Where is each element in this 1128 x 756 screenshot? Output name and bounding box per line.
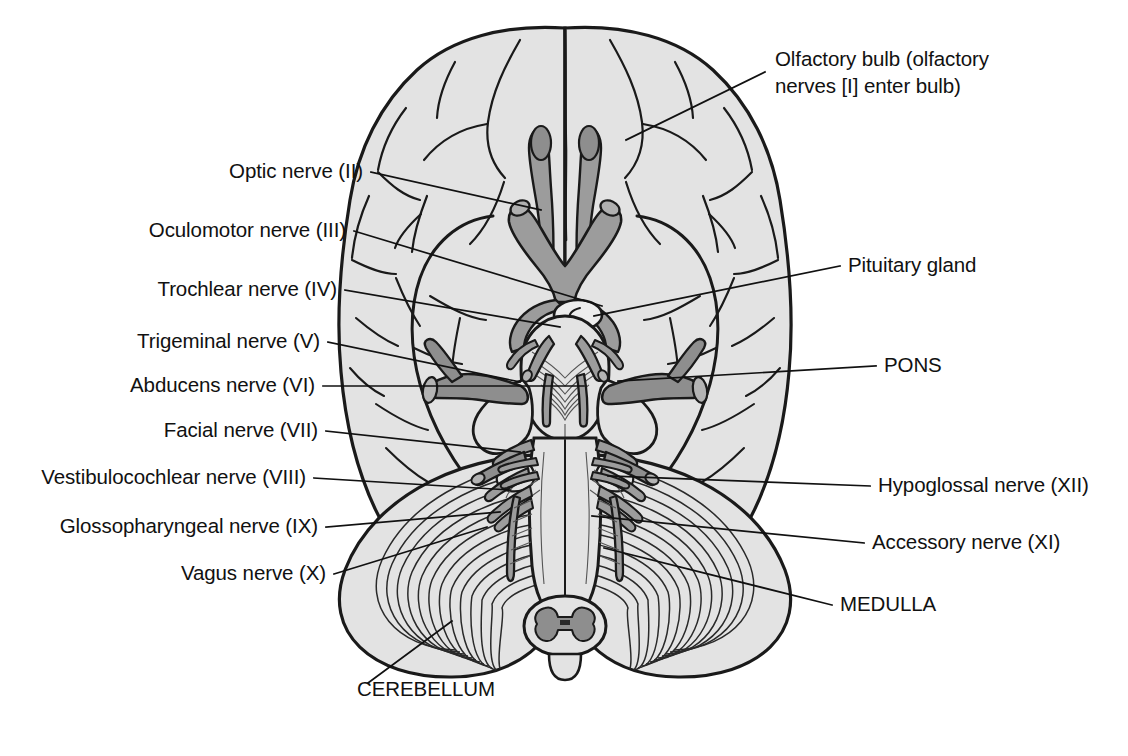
label-facial-nerve[interactable]: Facial nerve (VII) [164, 418, 318, 441]
olfactory-bulb-left [531, 126, 551, 160]
label-glossopharyngeal-nerve[interactable]: Glossopharyngeal nerve (IX) [60, 514, 318, 537]
labels-bottom: CEREBELLUM [357, 677, 495, 700]
brain-anatomy-figure: Optic nerve (II) Oculomotor nerve (III) … [0, 0, 1128, 756]
label-medulla[interactable]: MEDULLA [840, 592, 937, 615]
central-canal [560, 620, 570, 625]
label-oculomotor-nerve[interactable]: Oculomotor nerve (III) [149, 218, 346, 241]
label-pituitary-gland[interactable]: Pituitary gland [848, 253, 976, 276]
label-abducens-nerve[interactable]: Abducens nerve (VI) [130, 373, 315, 396]
longitudinal-fissure [565, 30, 566, 240]
label-trigeminal-nerve[interactable]: Trigeminal nerve (V) [137, 329, 320, 352]
label-vagus-nerve[interactable]: Vagus nerve (X) [181, 561, 326, 584]
label-vestibulocochlear-nerve[interactable]: Vestibulocochlear nerve (VIII) [41, 465, 306, 488]
label-trochlear-nerve[interactable]: Trochlear nerve (IV) [157, 277, 337, 300]
label-olfactory-bulb-line1[interactable]: Olfactory bulb (olfactory [775, 47, 990, 70]
olfactory-bulb-right [579, 126, 599, 160]
inferior-brain-diagram: Optic nerve (II) Oculomotor nerve (III) … [0, 0, 1128, 756]
label-pons[interactable]: PONS [884, 353, 942, 376]
label-hypoglossal-nerve[interactable]: Hypoglossal nerve (XII) [878, 473, 1089, 496]
label-accessory-nerve[interactable]: Accessory nerve (XI) [872, 530, 1060, 553]
label-optic-nerve[interactable]: Optic nerve (II) [229, 159, 363, 182]
label-cerebellum[interactable]: CEREBELLUM [357, 677, 495, 700]
spinal-cord-tail [549, 654, 581, 680]
label-olfactory-bulb-line2[interactable]: nerves [I] enter bulb) [775, 74, 961, 97]
